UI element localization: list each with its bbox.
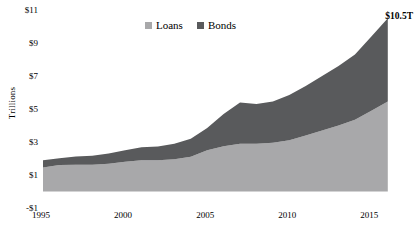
end-total-annotation: $10.5T — [385, 11, 413, 21]
x-axis-tick-labels: 19952000200520102015 — [0, 210, 416, 226]
x-tick-label: 2010 — [278, 210, 296, 221]
x-tick-label: 2005 — [196, 210, 214, 221]
x-tick-label: 2015 — [360, 210, 378, 221]
area-series-group — [43, 18, 388, 191]
x-tick-label: 1995 — [32, 210, 50, 221]
x-tick-label: 2000 — [114, 210, 132, 221]
plot-area — [0, 0, 416, 233]
stacked-area-chart: Trillions $11$9$7$5$3$1-$1 LoansBonds $1… — [0, 0, 416, 233]
